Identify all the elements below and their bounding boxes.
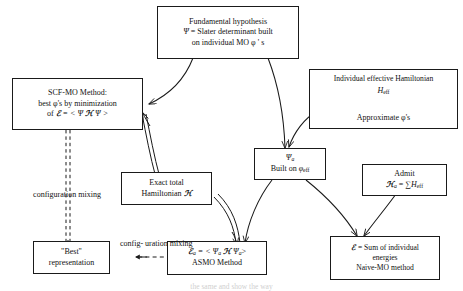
edge-admit-to-naivemo xyxy=(364,194,396,236)
scf-mo-line2: best φ's by minimization xyxy=(38,99,117,110)
edge-exacth-to-asmo-double xyxy=(214,194,240,245)
node-fundamental-hypothesis: Fundamental hypothesis Ψ = Slater determ… xyxy=(157,6,299,59)
naive-mo-line2: energies xyxy=(372,253,397,263)
config-mixing-horizontal-line3: mixing xyxy=(170,239,193,248)
asmo-line1: ℰa = < Ψa ℋ Ψa> xyxy=(188,247,246,258)
best-representation-line1: "Best" xyxy=(61,247,82,258)
config-mixing-horizontal-line2: uration xyxy=(145,239,168,248)
edge-exacth-to-scfmo-double xyxy=(142,113,160,178)
fundamental-hypothesis-line1: Fundamental hypothesis xyxy=(189,17,267,28)
page-bleed-text: the same and show the way xyxy=(0,282,463,291)
admit-line2: ℋa = ∑Heff xyxy=(386,180,423,191)
node-psi-a: Ψa Built on φeff xyxy=(254,148,326,180)
edge-hypothesis-to-psia xyxy=(268,58,285,148)
psi-a-line2: Built on φeff xyxy=(271,164,310,175)
naive-mo-line3: Naive-MO method xyxy=(356,263,414,273)
node-naive-mo-method: ℰ = Sum of individual energies Naive-MO … xyxy=(330,236,440,280)
edge-hypothesis-to-scfmo xyxy=(149,58,193,104)
best-representation-line2: representation xyxy=(49,258,94,269)
fundamental-hypothesis-line2: Ψ = Slater determinant built xyxy=(183,27,273,38)
psi-a-line1: Ψa xyxy=(286,153,295,164)
edge-psia-to-naivemo xyxy=(306,180,357,236)
scf-mo-line3: of ℰ = < Ψ ℋ Ψ > xyxy=(47,109,108,120)
heff-line2: Heff xyxy=(377,86,389,97)
heff-line1: Individual effective Hamiltonian xyxy=(334,74,433,84)
config-mixing-vertical-line2: mixing xyxy=(78,190,101,199)
exact-hamiltonian-line1: Exact total xyxy=(149,178,183,189)
naive-mo-line1: ℰ = Sum of individual xyxy=(351,243,419,253)
scf-mo-line1: SCF-MO Method: xyxy=(48,88,107,99)
edge-psia-to-asmo xyxy=(245,180,272,243)
heff-line3: Approximate φ's xyxy=(357,113,410,124)
edge-label-configuration-mixing-vertical: configuration mixing xyxy=(12,190,122,200)
admit-line1: Admit xyxy=(394,169,414,180)
edge-label-configuration-mixing-horizontal: config- uration mixing xyxy=(120,239,168,249)
node-exact-total-hamiltonian: Exact total Hamiltonian ℋ xyxy=(121,172,212,205)
node-best-representation: "Best" representation xyxy=(33,241,110,274)
config-mixing-horizontal-line1: config- xyxy=(120,239,143,248)
node-individual-effective-hamiltonian: Individual effective Hamiltonian Heff Ap… xyxy=(309,69,458,129)
config-mixing-vertical-line1: configuration xyxy=(33,190,76,199)
node-scf-mo-method: SCF-MO Method: best φ's by minimization … xyxy=(12,78,143,130)
fundamental-hypothesis-line3: on individual MO φ ' s xyxy=(192,38,265,49)
node-admit: Admit ℋa = ∑Heff xyxy=(362,164,447,196)
exact-hamiltonian-line2: Hamiltonian ℋ xyxy=(142,189,192,200)
asmo-line2: ASMO Method xyxy=(192,258,242,269)
